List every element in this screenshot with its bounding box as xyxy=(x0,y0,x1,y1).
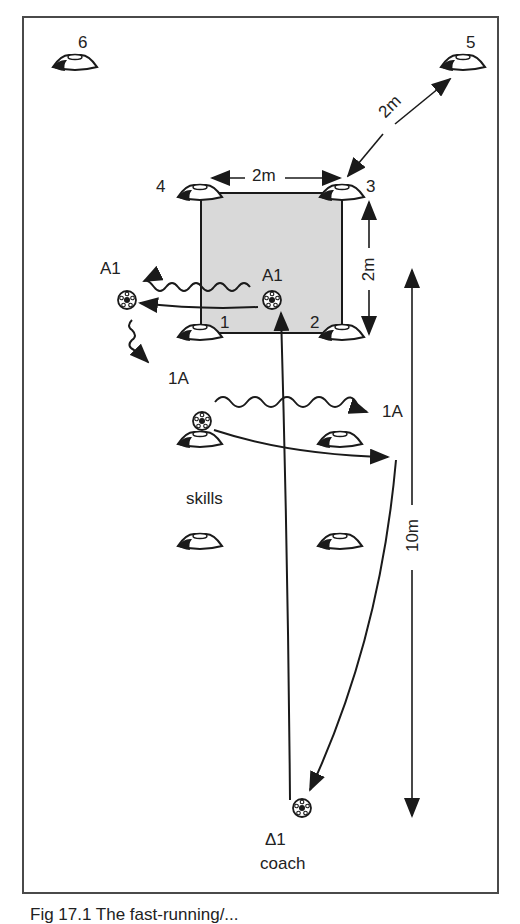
player-label-1a-left: 1A xyxy=(168,370,189,387)
player-label-1a-right: 1A xyxy=(382,403,403,420)
dimension-diagonal-2m xyxy=(348,79,450,176)
dimension-label-10m: 10m xyxy=(404,519,421,552)
cone-3 xyxy=(320,185,364,202)
cone-label-3: 3 xyxy=(366,178,375,195)
cone-5 xyxy=(441,55,485,72)
player-label-a1-inside: A1 xyxy=(262,267,283,284)
cone-skills-top-right xyxy=(318,432,362,449)
cone-skills-bottom-left xyxy=(178,534,222,551)
cone-skills-bottom-right xyxy=(318,534,362,551)
ball-skills-icon xyxy=(193,412,211,430)
dimension-label-right: 2m xyxy=(360,258,377,282)
cone-6 xyxy=(53,55,97,72)
cone-label-6: 6 xyxy=(78,34,87,51)
pass-path-coach-to-a1 xyxy=(281,313,290,800)
figure-caption: Fig 17.1 The fast-running/... xyxy=(30,906,239,923)
cone-label-5: 5 xyxy=(466,34,475,51)
coach-symbol-label: Δ1 xyxy=(265,831,286,848)
coach-label: coach xyxy=(260,855,305,872)
ball-a1-inside-icon xyxy=(263,291,281,309)
player-label-a1-outside: A1 xyxy=(100,260,121,277)
cone-label-2: 2 xyxy=(310,314,319,331)
dribble-path-to-1a-left xyxy=(129,320,148,362)
ball-coach-icon xyxy=(293,799,311,817)
ball-a1-outside-icon xyxy=(118,291,136,309)
cone-skills-top-left xyxy=(178,432,222,449)
return-path-to-coach xyxy=(310,460,396,790)
grid-square xyxy=(201,193,342,333)
area-label-skills: skills xyxy=(186,490,223,507)
dimension-label-top: 2m xyxy=(252,167,276,184)
dribble-path-to-1a-right xyxy=(215,397,367,412)
cone-label-1: 1 xyxy=(220,314,229,331)
cone-label-4: 4 xyxy=(156,178,165,195)
cone-4 xyxy=(178,185,222,202)
